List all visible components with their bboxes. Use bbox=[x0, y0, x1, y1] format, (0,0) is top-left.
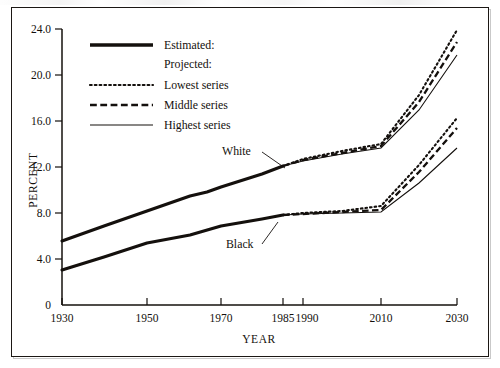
y-tick-label-20: 20.0 bbox=[31, 69, 51, 81]
chart-legend: Estimated: Projected: Lowest series Midd… bbox=[90, 38, 231, 132]
y-tick-label-8: 8.0 bbox=[37, 207, 52, 219]
series-white-lowest bbox=[283, 30, 457, 166]
x-axis-ticks bbox=[62, 298, 457, 305]
annotation-black-leader bbox=[262, 222, 278, 244]
series-black-lowest bbox=[283, 118, 457, 215]
chart-plot-area: 24.0 20.0 16.0 12.0 8.0 4.0 0 1930 1950 … bbox=[0, 0, 500, 368]
legend-label-estimated: Estimated: bbox=[164, 38, 214, 52]
annotation-black-label: Black bbox=[226, 237, 254, 251]
legend-label-highest: Highest series bbox=[164, 118, 231, 132]
annotation-white-leader bbox=[262, 152, 285, 168]
y-tick-label-24: 24.0 bbox=[31, 23, 51, 35]
x-tick-label-2030: 2030 bbox=[446, 312, 469, 324]
y-tick-label-0: 0 bbox=[45, 299, 51, 311]
y-axis-title: PERCENT bbox=[27, 152, 39, 207]
x-tick-label-2010: 2010 bbox=[370, 312, 393, 324]
x-tick-label-1985: 1985 bbox=[272, 312, 295, 324]
y-tick-label-16: 16.0 bbox=[31, 115, 51, 127]
y-tick-label-4: 4.0 bbox=[37, 253, 52, 265]
y-axis-ticks bbox=[55, 29, 62, 259]
x-tick-label-1970: 1970 bbox=[210, 312, 233, 324]
x-tick-label-1950: 1950 bbox=[136, 312, 159, 324]
x-tick-label-1990: 1990 bbox=[296, 312, 319, 324]
legend-label-lowest: Lowest series bbox=[164, 78, 229, 92]
legend-label-projected: Projected: bbox=[164, 57, 212, 71]
x-tick-label-1930: 1930 bbox=[51, 312, 74, 324]
annotation-white-label: White bbox=[222, 144, 251, 158]
series-white-estimated bbox=[62, 166, 283, 241]
chart-figure: 24.0 20.0 16.0 12.0 8.0 4.0 0 1930 1950 … bbox=[0, 0, 500, 368]
x-axis-title: YEAR bbox=[242, 333, 276, 345]
series-white-middle bbox=[283, 42, 457, 166]
legend-label-middle: Middle series bbox=[164, 98, 228, 112]
